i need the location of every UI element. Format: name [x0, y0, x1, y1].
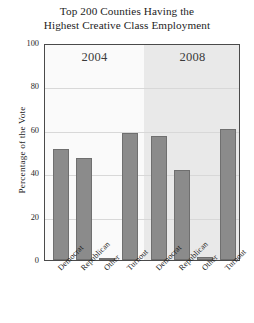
x-tick-2004-turnout: Turnout [125, 247, 150, 272]
x-tick-2004-other: Other [102, 253, 122, 273]
x-axis-ticks: Democrat Republican Other Turnout Democr… [0, 0, 254, 323]
chart-container: Top 200 Counties Having the Highest Crea… [0, 0, 254, 323]
x-tick-2008-other: Other [200, 253, 220, 273]
x-tick-2008-turnout: Turnout [223, 247, 248, 272]
